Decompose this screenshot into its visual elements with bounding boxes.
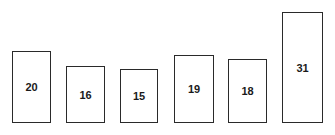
- bar-chart: 201615191831: [0, 0, 335, 135]
- bar-value-label: 16: [79, 89, 91, 101]
- bar-5: 18: [228, 59, 267, 123]
- bar-6: 31: [282, 12, 323, 123]
- bar-value-label: 15: [133, 90, 145, 102]
- bar-3: 15: [120, 69, 158, 123]
- bar-value-label: 20: [25, 81, 37, 93]
- bar-value-label: 31: [296, 62, 308, 74]
- bar-value-label: 18: [241, 85, 253, 97]
- bar-4: 19: [174, 55, 214, 123]
- bar-2: 16: [66, 66, 105, 123]
- bar-value-label: 19: [188, 83, 200, 95]
- bar-1: 20: [12, 51, 51, 123]
